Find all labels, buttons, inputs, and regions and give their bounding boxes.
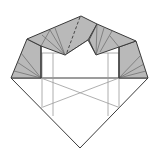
lower-diamond-body [11, 78, 148, 148]
right-side-flap [119, 41, 148, 78]
origami-diagram [0, 0, 155, 151]
